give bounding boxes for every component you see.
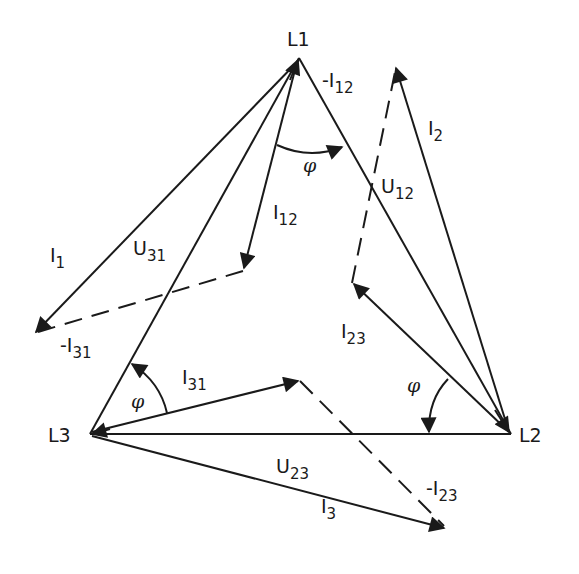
phasor-diagram: L1 L2 L3 U12 U23 U31 I1 I2 I3 I12 I23 I3… — [0, 0, 579, 574]
current-i1-arrow — [36, 60, 299, 332]
current-i12-arrow — [244, 62, 297, 268]
phi-label-l3: φ — [131, 390, 145, 412]
phi-arc-l1 — [277, 145, 342, 153]
label-i23: I23 — [341, 320, 366, 348]
phi-arc-l2 — [429, 379, 448, 432]
node-label-l3: L3 — [48, 424, 71, 446]
label-i31: I31 — [182, 366, 207, 394]
phi-label-l1: φ — [303, 154, 317, 176]
diagram-svg: L1 L2 L3 U12 U23 U31 I1 I2 I3 I12 I23 I3… — [0, 0, 579, 574]
current-i3-arrow — [92, 436, 444, 528]
current-minus-i31-dashed — [38, 271, 243, 332]
label-i1: I1 — [50, 244, 65, 272]
label-minus-i23: -I23 — [426, 477, 458, 505]
label-u12: U12 — [381, 175, 414, 203]
label-i12: I12 — [273, 201, 298, 229]
label-u31: U31 — [133, 237, 166, 265]
voltage-u12-line — [299, 58, 511, 434]
node-label-l2: L2 — [519, 424, 542, 446]
label-minus-i31: -I31 — [60, 334, 92, 362]
label-minus-i12: -I12 — [322, 69, 354, 97]
label-u23: U23 — [276, 455, 309, 483]
node-label-l1: L1 — [287, 28, 310, 50]
label-i2: I2 — [428, 117, 443, 145]
phi-label-l2: φ — [407, 374, 421, 396]
